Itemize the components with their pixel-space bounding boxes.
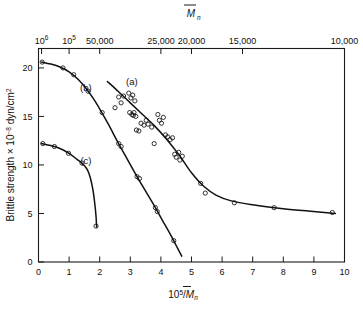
top-axis-tick-label: 20,000	[178, 36, 206, 46]
top-axis-tick-label: 50,000	[86, 36, 114, 46]
curve-label-c: (c)	[80, 155, 91, 166]
x-axis-tick-label: 4	[158, 267, 163, 277]
x-axis-tick-label: 3	[128, 267, 133, 277]
y-axis-tick-label: 5	[27, 209, 32, 219]
y-axis-tick-label: 10	[22, 160, 32, 170]
x-axis-title-text: 105/Mn	[168, 289, 198, 302]
x-axis-tick-label: 0	[36, 267, 41, 277]
top-axis-tick-label: 15,000	[229, 36, 257, 46]
y-axis-title: Brittle strength × 10−8 dyn/cm2	[5, 88, 17, 221]
y-axis-tick-label: 20	[22, 63, 32, 73]
top-axis-title-text: M	[187, 8, 196, 19]
x-axis-tick-label: 7	[250, 267, 255, 277]
top-axis-title-subscript: n	[197, 14, 201, 21]
x-axis-tick-label: 5	[189, 267, 194, 277]
chart-canvas: M n 10610550,00025,00020,00015,00010,000…	[0, 0, 363, 309]
x-axis-tick-label: 1	[67, 267, 72, 277]
top-axis-tick-label: 25,000	[147, 36, 175, 46]
x-axis-tick-label: 9	[311, 267, 316, 277]
x-axis-tick-label: 8	[281, 267, 286, 277]
top-axis-tick-label: 10,000	[331, 36, 359, 46]
x-axis-tick-label: 6	[220, 267, 225, 277]
y-axis-tick-label: 15	[22, 112, 32, 122]
y-axis-tick-label: 0	[27, 257, 32, 267]
y-axis-title-text: Brittle strength × 10−8 dyn/cm2	[5, 88, 17, 221]
curve-label-a: (a)	[126, 76, 138, 87]
brittle-strength-chart: M n 10610550,00025,00020,00015,00010,000…	[0, 0, 363, 309]
x-axis-title: 105/Mn	[168, 287, 198, 302]
curve-label-b: (b)	[80, 82, 92, 93]
x-axis-tick-label: 2	[97, 267, 102, 277]
x-axis-tick-label: 10	[339, 267, 349, 277]
